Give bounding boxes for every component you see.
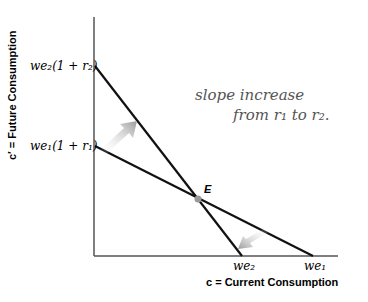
x-axis-label: c = Current Consumption [206, 276, 339, 288]
shift-up-arrow-icon [100, 121, 137, 155]
y-tick-upper: we₂(1 + r₂) [30, 59, 98, 73]
budget-line-r1 [95, 146, 313, 256]
annotation-line-2: from r₁ to r₂. [232, 106, 329, 124]
budget-constraint-diagram: E we₂(1 + r₂) we₁(1 + r₁) we₂ we₁ c = Cu… [0, 0, 368, 302]
y-axis-label: c′ = Future Consumption [6, 30, 18, 160]
x-tick-left: we₂ [233, 259, 255, 273]
shift-down-arrow-icon [238, 228, 269, 249]
intersection-point-e [195, 196, 202, 203]
y-tick-lower: we₁(1 + r₁) [30, 139, 98, 153]
x-tick-right: we₁ [304, 259, 326, 273]
annotation-line-1: slope increase [195, 86, 304, 104]
axes [94, 17, 338, 256]
intersection-label: E [204, 183, 212, 195]
